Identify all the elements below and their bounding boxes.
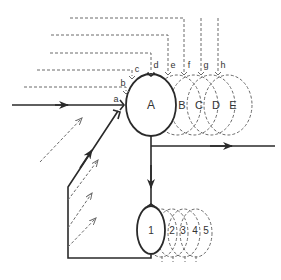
label-d: d bbox=[153, 60, 158, 70]
label-3: 3 bbox=[180, 225, 186, 236]
neural-network-diagram: A B C D E a b c d e f g h 1 2 3 4 5 bbox=[0, 0, 281, 280]
label-B: B bbox=[178, 99, 185, 111]
label-b: b bbox=[120, 78, 125, 88]
label-D: D bbox=[212, 99, 220, 111]
label-e: e bbox=[170, 60, 175, 70]
label-5: 5 bbox=[203, 225, 209, 236]
label-c: c bbox=[135, 64, 140, 74]
dashed-diagonal-inputs bbox=[40, 118, 98, 247]
label-1: 1 bbox=[148, 225, 154, 236]
label-a: a bbox=[113, 94, 118, 104]
label-f: f bbox=[188, 60, 191, 70]
label-g: g bbox=[203, 60, 208, 70]
label-E: E bbox=[229, 99, 236, 111]
label-4: 4 bbox=[192, 225, 198, 236]
label-C: C bbox=[195, 99, 203, 111]
label-2: 2 bbox=[169, 225, 175, 236]
label-A: A bbox=[147, 98, 155, 112]
label-h: h bbox=[220, 60, 225, 70]
